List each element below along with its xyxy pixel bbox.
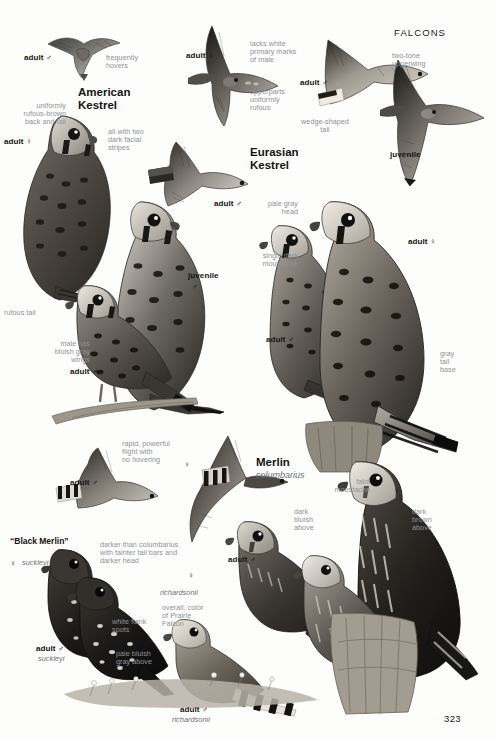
label-bm-female-symbol: ♀ (10, 560, 16, 569)
label-ek-wedge-shaped-tail: wedge-shaped tail (290, 118, 360, 134)
label-ri-female-symbol: ♀ (188, 572, 194, 581)
label-ak-adult-male-glide: adult ♂ (214, 200, 242, 209)
illustration-perch-branch-kestrel (44, 392, 204, 428)
label-ak-uniformly-rufous: uniformly rufous-brown back and tail (0, 102, 66, 126)
label-me-adult-male-flight: adult ♂ (70, 479, 98, 488)
label-me-rapid-flight: rapid, powerful flight with no hovering (122, 440, 170, 464)
label-ak-adult-male-perched: adult ♂ (70, 368, 98, 377)
label-bm-suckleyi-male: suckleyi (38, 655, 64, 663)
species-subname-merlin: columbarius (256, 470, 305, 480)
label-me-dark-brown-above: dark brown above (412, 508, 432, 532)
label-bm-darker-than-columbarius: darker than columbarius with fainter tai… (100, 541, 178, 565)
page-number: 323 (444, 714, 461, 725)
label-ek-adult-female-flight: adult ♀ (186, 52, 214, 61)
label-ak-frequently-hovers: frequently hovers (106, 54, 138, 70)
illustration-wood-stump (322, 612, 432, 718)
label-me-dark-bluish-above: dark bluish above (294, 508, 314, 532)
label-ek-upperparts-rufous: upperparts uniformly rufous (250, 88, 285, 112)
species-name-merlin: Merlin (256, 456, 290, 469)
species-name-american-kestrel: American Kestrel (78, 86, 130, 113)
label-ri-pale-bluish-gray: pale bluish gray above (116, 650, 152, 666)
label-ak-bluish-gray-wings: male has bluish gray wings (28, 340, 90, 364)
label-ek-adult-female: adult ♀ (408, 238, 436, 247)
label-ek-adult-male-flight: adult ♂ (300, 79, 328, 88)
label-ri-richardsonii-female: richardsonii (160, 589, 198, 597)
label-ri-richardsonii-male: richardsonii (172, 716, 210, 724)
label-ek-lacks-white: lacks white primary marks of male (250, 40, 296, 64)
label-ek-juvenile: juvenile (390, 151, 421, 160)
label-bm-white-flank-spots: white flank spots (112, 618, 147, 634)
field-guide-page: FALCONS (0, 0, 496, 741)
label-me-female-symbol-2: ♀ (394, 487, 400, 496)
label-ak-adult-female: adult ♀ (4, 138, 32, 147)
label-me-faint-moustache: faint moustache (312, 478, 370, 494)
label-me-adult-male-perched: adult ♂ (228, 556, 256, 565)
label-ak-juvenile: juvenile (188, 272, 219, 281)
label-me-female-symbol: ♀ (184, 461, 190, 470)
label-ak-two-facial-stripes: all with two dark facial stripes (108, 128, 144, 152)
species-name-black-merlin: “Black Merlin” (10, 537, 69, 547)
label-ek-gray-tail-base: gray tail base (440, 350, 456, 374)
label-ak-adult-male-flight: adult ♂ (24, 54, 52, 63)
label-ek-adult-male: adult ♂ (266, 336, 294, 345)
label-ek-single-moustache: single dark moustache (222, 252, 298, 268)
label-ek-two-tone-upperwing: two-tone upperwing (392, 52, 426, 68)
label-bm-adult-male: adult ♂ (36, 645, 64, 654)
label-ak-juvenile-symbol: ♂ (192, 283, 198, 292)
species-name-eurasian-kestrel: Eurasian Kestrel (250, 146, 299, 173)
label-ek-pale-gray-head: pale gray head (246, 200, 298, 216)
label-bm-suckleyi-female: suckleyi (22, 559, 48, 567)
label-ak-rufous-tail: rufous tail (4, 309, 36, 317)
label-ri-overall-color: overall, color of Prairie Falcon (162, 604, 203, 628)
label-ri-adult-male: adult ♂ (180, 706, 208, 715)
illustration-eurasian-kestrel-juvenile-flight (380, 58, 492, 190)
